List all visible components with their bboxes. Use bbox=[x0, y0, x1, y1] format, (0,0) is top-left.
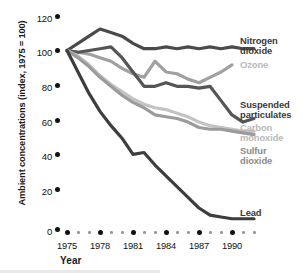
x-tick-label-1975: 1975 bbox=[50, 241, 84, 251]
x-tick-dot-1992 bbox=[253, 231, 256, 234]
legend-label-nitrogen-dioxide: Nitrogen dioxide bbox=[240, 36, 278, 56]
x-tick-dot-1988 bbox=[209, 231, 212, 234]
x-tick-label-1984: 1984 bbox=[149, 241, 183, 251]
x-tick-dot-1989 bbox=[220, 231, 223, 234]
series-line-lead bbox=[67, 51, 254, 219]
x-tick-dot-1978 bbox=[98, 230, 103, 235]
series-line-suspended-particulates bbox=[67, 47, 254, 122]
x-tick-dot-1985 bbox=[176, 231, 179, 234]
x-tick-dot-1986 bbox=[187, 231, 190, 234]
x-tick-dot-1980 bbox=[121, 231, 124, 234]
legend-label-sulfur-dioxide: Sulfur dioxide bbox=[240, 146, 272, 166]
series-line-sulfur-dioxide bbox=[67, 51, 254, 135]
x-tick-label-1978: 1978 bbox=[83, 241, 117, 251]
x-tick-dot-1982 bbox=[143, 231, 146, 234]
x-tick-label-1981: 1981 bbox=[116, 241, 150, 251]
legend-label-lead: Lead bbox=[240, 208, 261, 218]
legend-label-suspended-particulates: Suspended particulates bbox=[240, 100, 291, 120]
x-tick-dot-1975 bbox=[65, 230, 70, 235]
x-tick-label-1987: 1987 bbox=[182, 241, 216, 251]
series-line-carbon-monoxide bbox=[67, 51, 254, 132]
x-tick-dot-1983 bbox=[154, 231, 157, 234]
series-line-group bbox=[67, 29, 254, 219]
x-tick-dot-1990 bbox=[230, 230, 235, 235]
x-tick-dot-1976 bbox=[77, 231, 80, 234]
legend-label-ozone: Ozone bbox=[240, 60, 268, 70]
series-line-nitrogen-dioxide bbox=[67, 29, 254, 50]
x-tick-label-1990: 1990 bbox=[215, 241, 249, 251]
legend-label-carbon-monoxide: Carbon monoxide bbox=[240, 123, 283, 143]
chart-figure: Ambient concentrations (index, 1975 = 10… bbox=[0, 0, 303, 273]
x-tick-dot-1987 bbox=[197, 230, 202, 235]
x-tick-dot-1977 bbox=[88, 231, 91, 234]
x-tick-dot-1981 bbox=[131, 230, 136, 235]
x-tick-dot-1991 bbox=[242, 231, 245, 234]
x-axis-title: Year bbox=[60, 255, 82, 266]
x-tick-dot-1979 bbox=[110, 231, 113, 234]
x-tick-dot-1984 bbox=[164, 230, 169, 235]
